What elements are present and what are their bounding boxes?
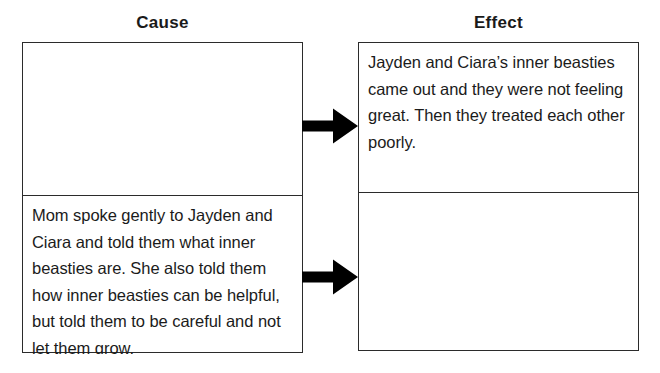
effect-cell-top[interactable]: Jayden and Ciara’s inner beasties came o…	[359, 43, 638, 193]
effect-cell-top-text: Jayden and Ciara’s inner beasties came o…	[368, 49, 631, 155]
effect-column: Jayden and Ciara’s inner beasties came o…	[358, 42, 639, 351]
effect-cell-bottom[interactable]	[359, 193, 638, 352]
arrow-right-icon-top	[302, 108, 358, 144]
cause-effect-worksheet: Cause Effect Mom spoke gently to Jayden …	[0, 0, 660, 373]
cause-column: Mom spoke gently to Jayden and Ciara and…	[22, 42, 303, 353]
cause-cell-bottom-text: Mom spoke gently to Jayden and Ciara and…	[32, 202, 295, 354]
arrow-right-icon-bottom	[302, 259, 358, 295]
column-heading-effect: Effect	[358, 13, 639, 33]
cause-cell-bottom[interactable]: Mom spoke gently to Jayden and Ciara and…	[23, 196, 302, 354]
column-heading-cause: Cause	[22, 13, 303, 33]
cause-cell-top[interactable]	[23, 43, 302, 196]
